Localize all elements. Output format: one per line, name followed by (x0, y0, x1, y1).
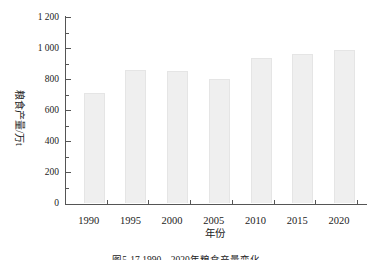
y-minor-tick (66, 33, 69, 34)
y-axis-title: 粮食产量/万t (12, 58, 26, 178)
y-minor-tick (66, 126, 69, 127)
y-tick-label: 1 200 (19, 12, 59, 23)
bar-2020 (334, 50, 355, 203)
x-tick (148, 200, 149, 204)
x-tick-label: 1990 (69, 214, 109, 227)
x-tick (274, 200, 275, 204)
figure: 02004006008001 0001 20019901995200020052… (0, 0, 372, 260)
plot-area: 02004006008001 0001 20019901995200020052… (0, 0, 372, 260)
y-major-tick (66, 48, 71, 49)
x-tick (232, 200, 233, 204)
bar-2010 (251, 58, 272, 203)
y-minor-tick (66, 157, 69, 158)
x-tick (357, 200, 358, 204)
bar-2015 (292, 54, 313, 204)
bar-2005 (209, 79, 230, 203)
y-minor-tick (66, 64, 69, 65)
y-tick-label: 1 000 (19, 43, 59, 54)
y-minor-tick (66, 95, 69, 96)
x-tick (107, 200, 108, 204)
y-major-tick (66, 141, 71, 142)
y-major-tick (66, 79, 71, 80)
y-major-tick (66, 204, 71, 205)
x-tick (190, 200, 191, 204)
bar-1990 (84, 93, 105, 203)
x-axis-line (65, 204, 367, 205)
y-major-tick (66, 172, 71, 173)
bar-1995 (125, 70, 146, 204)
x-tick (315, 200, 316, 204)
x-axis-title: 年份 (145, 225, 285, 240)
y-minor-tick (66, 188, 69, 189)
figure-caption: 图5-17 1990—2020年粮食产量变化 (0, 252, 372, 260)
y-major-tick (66, 110, 71, 111)
y-tick-label: 0 (19, 198, 59, 209)
y-major-tick (66, 17, 71, 18)
x-tick-label: 2020 (319, 214, 359, 227)
bar-2000 (167, 71, 188, 203)
